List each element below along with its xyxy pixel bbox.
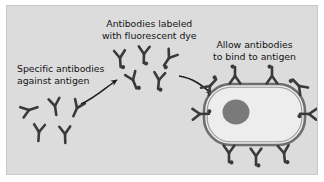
antibody-bound [267, 65, 278, 84]
cell-with-bound-antibodies [192, 65, 316, 168]
diagram-panel: Specific antibodies against antigen Anti… [6, 5, 318, 175]
antibody [33, 124, 45, 141]
arrow-middle-to-cell [179, 76, 212, 94]
cell-membrane [204, 84, 305, 145]
labeled-antibody-cluster [114, 46, 178, 92]
antibody-bound [224, 146, 235, 165]
antibody [20, 102, 39, 117]
figure-root: Specific antibodies against antigen Anti… [0, 0, 324, 182]
caption-labeled-antibodies: Antibodies labeled with fluorescent dye [102, 18, 197, 41]
antibody-labeled [152, 72, 165, 92]
antibody-labeled [125, 71, 142, 93]
antibody-labeled [138, 46, 149, 65]
antibody-labeled [114, 50, 126, 70]
caption-specific-antibodies: Specific antibodies against antigen [17, 63, 104, 86]
antibody-labeled [158, 49, 178, 71]
antibody-bound [278, 145, 291, 165]
antibody [59, 126, 70, 143]
antibody [49, 98, 62, 116]
cell-nucleus [223, 100, 250, 125]
unlabeled-antibody-cluster [20, 98, 85, 143]
antibody [68, 99, 85, 118]
antibody-bound [251, 149, 262, 168]
antibody-bound [230, 65, 241, 84]
caption-bind-to-antigen: Allow antibodies to bind to antigen [213, 39, 296, 62]
